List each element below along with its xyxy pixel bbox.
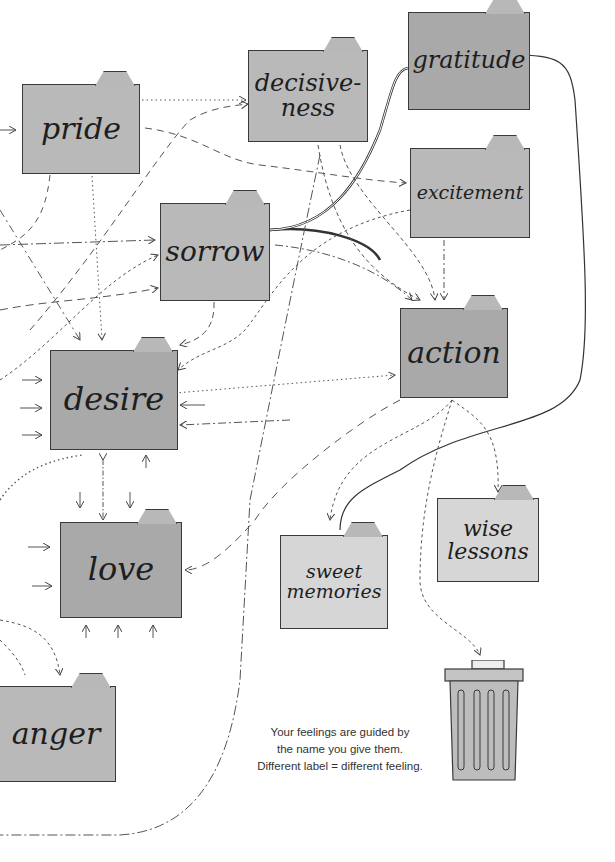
folder-label: sweet memories xyxy=(281,536,387,628)
folder-label: excitement xyxy=(411,149,529,237)
folder-sorrow[interactable]: sorrow xyxy=(160,203,270,301)
folder-label: wise lessons xyxy=(438,499,538,581)
folder-label: decisive- ness xyxy=(249,51,367,141)
folder-pride[interactable]: pride xyxy=(22,84,140,174)
folder-label: pride xyxy=(23,85,139,173)
folder-desire[interactable]: desire xyxy=(50,350,178,450)
caption-line-1: Your feelings are guided by xyxy=(240,724,440,741)
folder-label: gratitude xyxy=(409,13,529,109)
folder-label: anger xyxy=(0,687,115,781)
folder-wise-lessons[interactable]: wise lessons xyxy=(437,498,539,582)
folder-sweet-memories[interactable]: sweet memories xyxy=(280,535,388,629)
folder-label: action xyxy=(401,309,507,397)
folder-label: desire xyxy=(51,351,177,449)
folder-label: love xyxy=(61,523,181,617)
folder-anger[interactable]: anger xyxy=(0,686,116,782)
folder-love[interactable]: love xyxy=(60,522,182,618)
caption-line-3: Different label = different feeling. xyxy=(240,758,440,775)
feelings-diagram: pride decisive- ness gratitude excitemen… xyxy=(0,0,615,862)
folder-gratitude[interactable]: gratitude xyxy=(408,12,530,110)
folder-action[interactable]: action xyxy=(400,308,508,398)
folder-decisiveness[interactable]: decisive- ness xyxy=(248,50,368,142)
folder-excitement[interactable]: excitement xyxy=(410,148,530,238)
folder-label: sorrow xyxy=(161,204,269,300)
trash-can-icon[interactable] xyxy=(444,660,524,782)
caption-line-2: the name you give them. xyxy=(240,741,440,758)
caption: Your feelings are guided by the name you… xyxy=(240,724,440,775)
